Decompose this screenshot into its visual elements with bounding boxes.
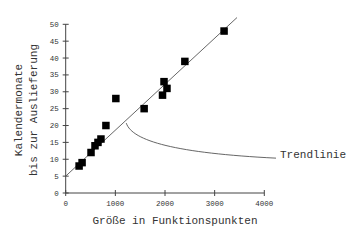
y-tick-label: 15	[50, 139, 60, 147]
annotation-label: Trendlinie	[280, 149, 346, 161]
y-axis-title-line1: Kalendermonate	[13, 64, 25, 156]
y-tick-label: 30	[50, 88, 60, 96]
x-axis: 01000200030004000	[63, 190, 273, 208]
x-axis-title: Größe in Funktionspunkten	[92, 215, 257, 227]
y-tick-label: 5	[54, 173, 59, 181]
y-tick-label: 20	[50, 122, 60, 130]
annotation-leader-line	[126, 123, 276, 158]
y-tick-label: 10	[50, 156, 60, 164]
y-axis-title-line2: bis zur Auslieferung	[28, 44, 40, 176]
x-tick-label: 2000	[156, 200, 175, 208]
y-tick-label: 25	[50, 105, 60, 113]
x-tick-label: 3000	[206, 200, 225, 208]
y-axis: 05101520253035404550	[50, 21, 69, 198]
y-tick-label: 35	[50, 71, 60, 79]
y-tick-label: 0	[54, 190, 59, 198]
data-point-square	[181, 58, 189, 66]
x-tick-label: 4000	[255, 200, 274, 208]
data-points	[75, 27, 227, 169]
data-point-square	[220, 27, 228, 35]
y-tick-label: 50	[50, 21, 60, 29]
data-point-square	[87, 149, 95, 157]
y-tick-label: 45	[50, 38, 60, 46]
data-point-square	[163, 85, 171, 93]
data-point-square	[102, 122, 110, 129]
x-tick-label: 0	[63, 200, 68, 208]
y-tick-label: 40	[50, 55, 60, 63]
data-point-square	[112, 95, 120, 103]
data-point-square	[78, 159, 86, 167]
data-point-square	[97, 135, 105, 143]
trendline-annotation: Trendlinie	[126, 123, 346, 161]
data-point-square	[159, 91, 167, 99]
data-point-square	[160, 78, 168, 86]
x-tick-label: 1000	[106, 200, 125, 208]
scatter-chart: 05101520253035404550 01000200030004000 T…	[0, 0, 362, 240]
data-point-square	[140, 105, 148, 113]
